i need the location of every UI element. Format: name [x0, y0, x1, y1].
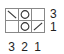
cell-r1-c2[interactable] — [32, 21, 45, 33]
backslash-icon — [6, 9, 18, 20]
cell-r1-c0[interactable] — [6, 21, 19, 33]
cell-r1-c1[interactable] — [19, 21, 32, 33]
circle-icon — [19, 21, 31, 32]
circle-icon — [19, 9, 31, 20]
col-clue-0: 3 — [5, 41, 18, 53]
puzzle-grid — [5, 8, 45, 33]
cell-r0-c1[interactable] — [19, 9, 32, 21]
row-clue-1: 1 — [50, 21, 57, 33]
cell-r0-c0[interactable] — [6, 9, 19, 21]
slash-icon — [32, 21, 44, 32]
cell-r0-c2[interactable] — [32, 9, 45, 21]
col-clue-1: 2 — [18, 41, 31, 53]
col-clue-2: 1 — [31, 41, 44, 53]
row-clue-0: 3 — [50, 8, 57, 20]
